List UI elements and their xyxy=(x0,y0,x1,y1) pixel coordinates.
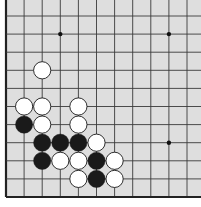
white-stone xyxy=(70,116,87,133)
star-point-icon xyxy=(167,141,171,145)
white-stone xyxy=(106,152,123,169)
black-stone xyxy=(34,152,51,169)
white-stone xyxy=(34,116,51,133)
white-stone xyxy=(16,98,33,115)
black-stone xyxy=(34,134,51,151)
white-stone xyxy=(34,62,51,79)
black-stone xyxy=(88,170,105,187)
white-stone xyxy=(34,98,51,115)
star-point-icon xyxy=(58,32,62,36)
star-point-icon xyxy=(167,32,171,36)
go-board-diagram xyxy=(0,0,201,207)
white-stone xyxy=(52,152,69,169)
white-stone xyxy=(70,152,87,169)
black-stone xyxy=(52,134,69,151)
black-stone xyxy=(16,116,33,133)
black-stone xyxy=(70,134,87,151)
board-surface xyxy=(6,0,201,197)
black-stone xyxy=(88,152,105,169)
white-stone xyxy=(88,134,105,151)
white-stone xyxy=(70,98,87,115)
white-stone xyxy=(70,170,87,187)
white-stone xyxy=(106,170,123,187)
board-grid xyxy=(6,0,201,197)
